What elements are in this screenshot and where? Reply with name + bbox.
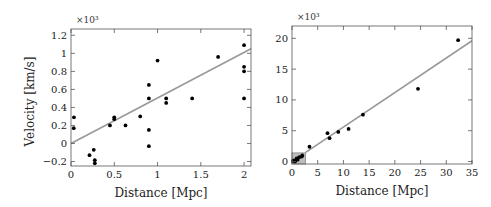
data-point [456,38,460,42]
y-tick-label: −0.2 [43,156,67,167]
y-tick-label: 0.4 [51,102,67,113]
plot-frame [71,29,251,166]
data-point [242,43,246,47]
data-point [88,153,92,157]
x-tick-label: 35 [466,167,479,178]
y-tick-label: 5 [282,125,288,136]
y-tick-label: 0 [61,138,67,149]
fit-line [71,49,251,144]
x-tick-label: 5 [315,167,321,178]
data-point [92,148,96,152]
y-tick-label: 1.2 [51,30,67,41]
x-tick-label: 30 [440,167,453,178]
data-point [242,69,246,73]
x-axis-label: Distance [Mpc] [114,186,207,200]
data-point [190,97,194,101]
data-point [124,124,128,128]
data-point [147,144,151,148]
data-point [147,128,151,132]
data-point [347,127,351,131]
data-point [216,55,220,59]
data-point [112,117,116,121]
y-multiplier-label: ×10³ [297,12,320,22]
data-point [416,87,420,91]
data-point [361,113,365,117]
data-point [147,83,151,87]
data-point [164,97,168,101]
data-point [72,115,76,119]
y-tick-label: 10 [275,94,288,105]
data-point [328,136,332,140]
y-tick-label: 0.6 [51,84,67,95]
y-tick-label: 0 [282,156,288,167]
x-tick-label: 2 [241,169,247,180]
y-tick-label: 15 [275,64,288,75]
data-point [242,65,246,69]
data-point [326,131,330,135]
y-tick-label: 0.2 [51,120,67,131]
x-axis-label: Distance [Mpc] [335,184,428,198]
x-tick-label: 25 [414,167,427,178]
x-tick-label: 0 [68,169,74,180]
y-axis-label: Velocity [km/s] [23,57,37,148]
data-point [336,130,340,134]
y-multiplier-label: ×10³ [76,15,99,25]
x-tick-label: 0.5 [106,169,122,180]
figure: 00.511.52−0.200.20.40.60.811.2×10³Distan… [0,0,491,207]
x-tick-label: 0 [289,167,295,178]
data-point [156,59,160,63]
data-point [72,126,76,130]
y-tick-label: 1 [61,48,67,59]
chart-left-velocity-vs-distance: 00.511.52−0.200.20.40.60.811.2×10³Distan… [23,15,251,200]
data-point [147,97,151,101]
chart-right-velocity-vs-distance-extended: 0510152025303505101520×10³Distance [Mpc] [275,12,478,198]
data-point [308,145,312,149]
data-point [93,161,97,165]
data-point [300,153,304,157]
data-point [108,124,112,128]
y-tick-label: 20 [275,33,288,44]
x-tick-label: 10 [337,167,350,178]
fit-line [305,41,472,153]
x-tick-label: 1.5 [193,169,209,180]
data-point [138,115,142,119]
x-tick-label: 1 [154,169,160,180]
y-tick-label: 0.8 [51,66,67,77]
data-point [164,101,168,105]
x-tick-label: 15 [363,167,376,178]
data-point [242,97,246,101]
x-tick-label: 20 [388,167,401,178]
